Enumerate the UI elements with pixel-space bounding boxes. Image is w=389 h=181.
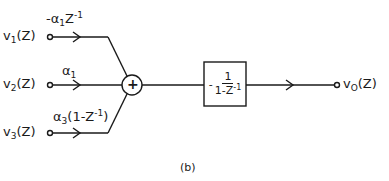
transfer-function-expression: - 1 1-Z-1 <box>204 62 246 106</box>
summer-plus-symbol: + <box>127 77 139 91</box>
gain-label-v1: -α1Z-1 <box>46 12 83 25</box>
gain-label-v2: α1 <box>62 64 76 77</box>
figure-caption: (b) <box>180 162 196 173</box>
input-label-v3: v3(Z) <box>3 125 36 138</box>
input-node-v3 <box>48 131 53 136</box>
output-label-vo: vO(Z) <box>343 77 377 90</box>
input-label-v2: v2(Z) <box>3 77 36 90</box>
input-node-v1 <box>48 35 53 40</box>
branch-v3-diagonal <box>108 94 127 133</box>
tf-denominator: 1-Z-1 <box>215 84 242 97</box>
output-node <box>335 83 340 88</box>
tf-numerator: 1 <box>222 71 233 84</box>
input-label-v1: v1(Z) <box>3 29 36 42</box>
gain-label-v3: α3(1-Z-1) <box>53 110 108 123</box>
branch-v1-diagonal <box>108 37 127 76</box>
input-node-v2 <box>48 83 53 88</box>
